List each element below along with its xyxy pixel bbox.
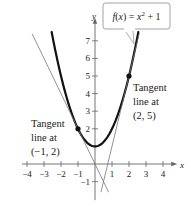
y-tick-label: 4 (86, 89, 91, 99)
tangent-point (126, 73, 131, 78)
y-tick-label: 7 (86, 36, 91, 46)
function-label: f(x) = x2 + 1 (112, 10, 160, 23)
x-tick-label: −3 (39, 169, 49, 179)
annotation-left-line-1: Tangent (31, 118, 65, 129)
y-tick-label: 5 (86, 71, 91, 81)
annotation-tangent-left: Tangent line at (−1, 2) (31, 118, 67, 158)
y-tick-label: 6 (86, 53, 91, 63)
callout-pointer (126, 31, 134, 44)
annotation-right-line-3: (2, 5) (133, 110, 156, 122)
annotation-tangent-right: Tangent line at (2, 5) (133, 82, 169, 122)
x-axis-label: x (179, 160, 184, 170)
points-group (75, 73, 131, 131)
y-axis-label: y (91, 11, 96, 21)
annotation-left-line-3: (−1, 2) (31, 146, 60, 158)
x-tick-label: −4 (22, 169, 32, 179)
annotation-right-line-2: line at (133, 96, 159, 107)
y-tick-label: 3 (86, 106, 91, 116)
y-tick-label: 2 (86, 124, 91, 134)
x-tick-label: 4 (161, 169, 166, 179)
x-tick-label: 2 (127, 169, 132, 179)
x-tick-label: 3 (144, 169, 149, 179)
x-tick-label: −2 (56, 169, 66, 179)
x-axis-arrow-icon (171, 162, 177, 166)
annotation-right-line-1: Tangent (133, 82, 167, 93)
x-tick-label: 1 (110, 169, 115, 179)
y-tick-label: −1 (80, 177, 90, 187)
annotation-left-line-2: line at (31, 132, 57, 143)
chart: −4−3−2−11234−1234567 f(x) = x2 + 1 Tange… (0, 0, 191, 206)
tangent-point (75, 126, 80, 131)
